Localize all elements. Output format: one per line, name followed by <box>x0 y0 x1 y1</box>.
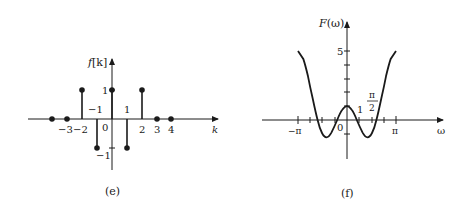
x-tick-label-mpi: −π <box>288 126 302 136</box>
x-tick-label-m2: −2 <box>73 124 88 135</box>
label-1: 1 <box>357 104 363 115</box>
stem-k-m2 <box>80 88 84 92</box>
x-tick-label-pi: π <box>392 126 398 136</box>
svg-text:π: π <box>369 90 375 100</box>
x-tick-label-0: 0 <box>337 122 343 133</box>
stem-k-3 <box>155 117 159 121</box>
y-axis-label: F(ω) <box>318 17 344 30</box>
y-tick-label-5: 5 <box>337 46 343 57</box>
stem-k-0 <box>110 88 114 92</box>
svg-text:2: 2 <box>369 103 375 113</box>
stem-plot-e: f[k] k −3 −2 0 2 3 4 1 −1 −1 1 (e) <box>28 56 218 198</box>
pi-half-label: π 2 <box>367 90 378 113</box>
x-tick-label-m3: −3 <box>58 124 73 135</box>
stem-label-1: 1 <box>124 104 130 115</box>
figure-canvas: f[k] k −3 −2 0 2 3 4 1 −1 −1 1 (e) <box>0 0 467 211</box>
caption-f: (f) <box>341 187 354 200</box>
x-tick-label-2: 2 <box>139 124 145 135</box>
x-tick-label-4: 4 <box>168 124 174 135</box>
x-tick-label-3: 3 <box>154 124 160 135</box>
stem-label-m1: −1 <box>88 104 103 115</box>
stem-k-1 <box>125 146 129 150</box>
stem-k-m4 <box>50 117 54 121</box>
stem-k-m3 <box>65 117 69 121</box>
y-axis-label: f[k] <box>87 56 107 69</box>
stem-k-2 <box>140 88 144 92</box>
line-plot-f: F(ω) ω 5 1 0 −π π π 2 (f) <box>262 17 445 200</box>
caption-e: (e) <box>105 185 120 198</box>
y-tick-label-1: 1 <box>102 85 108 96</box>
stem-k-4 <box>169 117 173 121</box>
x-tick-label-0: 0 <box>102 122 108 133</box>
x-axis-label: ω <box>437 125 445 136</box>
x-axis-label: k <box>212 124 218 135</box>
y-tick-label-m1: −1 <box>96 150 111 161</box>
